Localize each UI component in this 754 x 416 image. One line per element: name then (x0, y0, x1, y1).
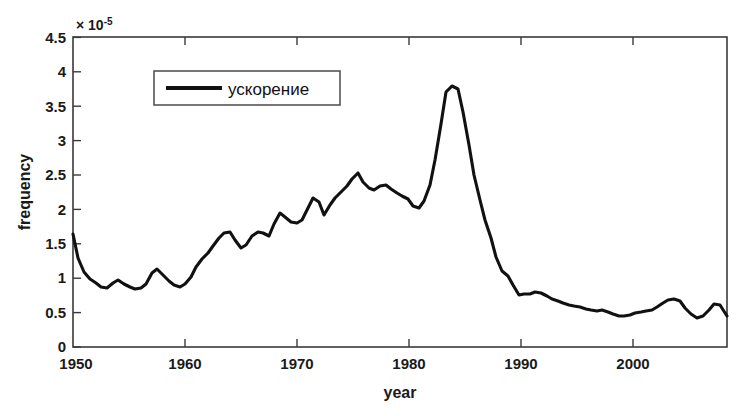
y-axis-exponent-mantissa: × 10 (76, 17, 104, 33)
data-series-line-uskorenie (73, 86, 727, 318)
y-tick-label-4.5: 4.5 (45, 29, 66, 46)
y-tick-label-0: 0 (58, 338, 66, 355)
y-tick-label-2.5: 2.5 (45, 166, 66, 183)
y-axis-exponent-label: × 10-5 (76, 16, 113, 34)
x-axis-tick-labels: 1950 1960 1970 1980 1990 2000 (59, 355, 649, 372)
x-tick-label-1990: 1990 (504, 355, 537, 372)
legend[interactable]: ускорение (154, 71, 340, 105)
figure-container: × 10-5 0 0.5 1 1.5 2 2.5 3 3.5 4 (0, 0, 754, 416)
y-tick-label-1.5: 1.5 (45, 235, 66, 252)
x-tick-label-1950: 1950 (59, 355, 92, 372)
chart-canvas: × 10-5 0 0.5 1 1.5 2 2.5 3 3.5 4 (0, 0, 754, 416)
y-axis-title: frequency (16, 154, 33, 231)
y-tick-label-1: 1 (58, 269, 66, 286)
y-tick-label-3.5: 3.5 (45, 98, 66, 115)
y-tick-label-3: 3 (58, 132, 66, 149)
y-axis-ticks (73, 37, 81, 347)
y-axis-exponent-power: -5 (104, 16, 113, 27)
y-tick-label-2: 2 (58, 201, 66, 218)
y-tick-label-4: 4 (58, 63, 67, 80)
x-axis-title: year (384, 384, 417, 401)
x-tick-label-1980: 1980 (392, 355, 425, 372)
legend-label-uskorenie: ускорение (228, 80, 309, 99)
x-tick-label-1960: 1960 (168, 355, 201, 372)
y-tick-label-0.5: 0.5 (45, 304, 66, 321)
y-axis-tick-labels: 0 0.5 1 1.5 2 2.5 3 3.5 4 4.5 (45, 29, 67, 355)
x-tick-label-2000: 2000 (616, 355, 649, 372)
x-tick-label-1970: 1970 (280, 355, 313, 372)
